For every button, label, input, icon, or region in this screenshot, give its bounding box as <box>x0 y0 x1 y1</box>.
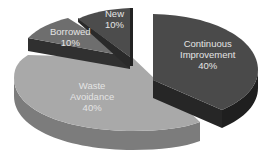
label-ci-pct: 40% <box>180 60 235 71</box>
label-borrowed: Borrowed 10% <box>50 26 91 48</box>
label-continuous-improvement: Continuous Improvement 40% <box>180 38 235 71</box>
label-bo-pct: 10% <box>50 37 91 48</box>
label-wa-pct: 40% <box>70 102 114 113</box>
label-new: New 10% <box>105 8 124 30</box>
label-nw-pct: 10% <box>105 19 124 30</box>
slice-new-side-front <box>130 8 133 66</box>
pie-chart <box>0 0 276 160</box>
label-nw-line1: New <box>105 8 124 19</box>
label-bo-line1: Borrowed <box>50 26 91 37</box>
label-ci-line2: Improvement <box>180 49 235 60</box>
label-ci-line1: Continuous <box>180 38 235 49</box>
label-wa-line2: Avoidance <box>70 91 114 102</box>
label-wa-line1: Waste <box>70 80 114 91</box>
label-waste-avoidance: Waste Avoidance 40% <box>70 80 114 113</box>
